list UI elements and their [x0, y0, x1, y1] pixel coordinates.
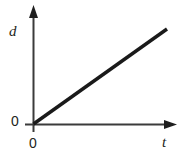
y-axis-arrowhead — [29, 5, 38, 18]
x-axis-origin-label: 0 — [29, 136, 37, 150]
x-axis-arrowhead — [164, 120, 177, 129]
x-axis-label: t — [162, 135, 166, 150]
y-axis-origin-label: 0 — [11, 114, 19, 128]
data-line-proportional — [34, 29, 168, 124]
distance-time-graph: d t 0 0 — [0, 0, 189, 157]
graph-canvas — [0, 0, 189, 157]
y-axis-label: d — [9, 24, 17, 39]
